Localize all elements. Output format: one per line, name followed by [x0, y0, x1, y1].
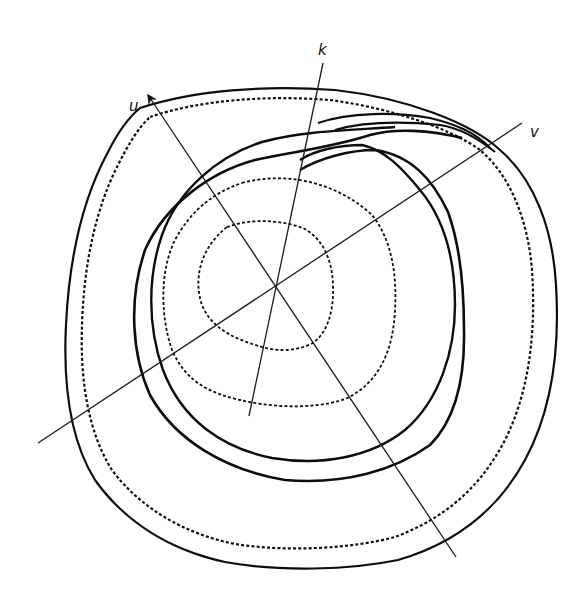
contour-third [151, 127, 455, 461]
contour-diagram: u k v [0, 0, 588, 607]
contour-outer-2 [65, 88, 557, 568]
axis-label-v: v [530, 123, 540, 141]
contour-inner [198, 221, 333, 350]
axis-v [38, 123, 522, 443]
axis-k [249, 63, 323, 416]
axis-label-u: u [129, 97, 139, 115]
axis-label-k: k [318, 41, 328, 59]
